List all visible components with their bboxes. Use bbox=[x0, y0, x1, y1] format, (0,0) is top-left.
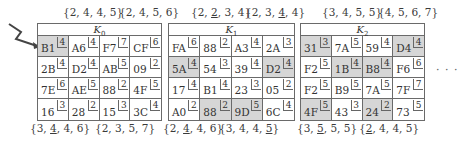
count-badge: 6 bbox=[150, 37, 160, 48]
byte-cell: 394 bbox=[232, 57, 263, 78]
count-badge: 5 bbox=[381, 79, 391, 90]
continuation-ellipsis: · · · bbox=[436, 64, 458, 77]
byte-value: D4 bbox=[396, 42, 411, 54]
byte-value: 88 bbox=[203, 42, 216, 54]
byte-cell: 7F7 bbox=[393, 78, 424, 99]
key-title: K0 bbox=[38, 24, 161, 36]
count-badge: 5 bbox=[320, 58, 330, 69]
byte-cell: AB5 bbox=[100, 57, 131, 78]
byte-cell: F66 bbox=[393, 57, 424, 78]
byte-cell: 282 bbox=[69, 99, 100, 120]
count-badge: 5 bbox=[320, 100, 330, 111]
key-0-bottom-label: {2, 3, 5, 7} bbox=[95, 122, 155, 134]
byte-value: 59 bbox=[366, 42, 379, 54]
byte-value: F2 bbox=[304, 84, 318, 96]
count-badge: 3 bbox=[57, 100, 67, 111]
count-badge: 4 bbox=[413, 37, 423, 48]
byte-cell: 092 bbox=[130, 57, 161, 78]
byte-cell: 6C4 bbox=[263, 99, 294, 120]
byte-cell: 7A5 bbox=[332, 36, 363, 57]
byte-value: AB bbox=[103, 63, 118, 75]
byte-cell: B95 bbox=[332, 78, 363, 99]
count-badge: 4 bbox=[57, 37, 67, 48]
count-badge: 2 bbox=[188, 100, 198, 111]
highlighted-byte-cell: D44 bbox=[393, 36, 424, 57]
count-badge: 4 bbox=[283, 58, 293, 69]
highlighted-byte-cell: 4F5 bbox=[301, 99, 332, 120]
byte-value: 15 bbox=[103, 106, 116, 118]
byte-cell: 2A3 bbox=[263, 36, 294, 57]
byte-value: 24 bbox=[366, 106, 379, 118]
highlighted-byte-cell: 9D5 bbox=[232, 99, 263, 120]
count-badge: 4 bbox=[220, 79, 230, 90]
byte-cell: 052 bbox=[263, 78, 294, 99]
highlighted-byte-cell: B14 bbox=[38, 36, 69, 57]
count-badge: 4 bbox=[251, 37, 261, 48]
byte-value: B8 bbox=[366, 63, 380, 75]
key-block-1: K1FA6882A342A35A4543394D24174B14233052A0… bbox=[168, 23, 295, 121]
byte-value: 1B bbox=[335, 63, 349, 75]
byte-cell: 233 bbox=[232, 78, 263, 99]
byte-cell: 735 bbox=[393, 99, 424, 120]
count-badge: 2 bbox=[220, 100, 230, 111]
key-2-bottom-label: {2, 4, 4, 5} bbox=[359, 122, 419, 134]
key-1-bottom-label: {2, 4, 4, 6} bbox=[163, 122, 223, 134]
byte-value: 7A bbox=[366, 84, 380, 96]
byte-value: 54 bbox=[203, 63, 216, 75]
byte-value: 88 bbox=[103, 84, 116, 96]
byte-value: B9 bbox=[335, 84, 349, 96]
count-badge: 5 bbox=[118, 58, 128, 69]
byte-value: 4F bbox=[133, 84, 147, 96]
highlighted-byte-cell: 882 bbox=[200, 99, 231, 120]
key-block-0: K0B14A64F77CF62B4D24AB50927E6AE58824F516… bbox=[37, 23, 162, 121]
count-badge: 5 bbox=[251, 100, 261, 111]
byte-value: 39 bbox=[235, 63, 248, 75]
byte-cell: 7E6 bbox=[38, 78, 69, 99]
byte-value: 43 bbox=[335, 106, 348, 118]
count-badge: 6 bbox=[413, 58, 423, 69]
key-grid: FA6882A342A35A4543394D24174B14233052A028… bbox=[169, 36, 294, 120]
count-badge: 3 bbox=[118, 100, 128, 111]
count-badge: 4 bbox=[88, 58, 98, 69]
count-badge: 3 bbox=[351, 100, 361, 111]
byte-cell: 882 bbox=[100, 78, 131, 99]
byte-cell: 543 bbox=[200, 57, 231, 78]
count-badge: 2 bbox=[220, 37, 230, 48]
byte-value: F2 bbox=[304, 63, 318, 75]
count-badge: 5 bbox=[351, 37, 361, 48]
key-0-top-label: {2, 4, 5, 6} bbox=[119, 6, 179, 18]
count-badge: 6 bbox=[57, 79, 67, 90]
byte-cell: F77 bbox=[100, 36, 131, 57]
byte-cell: 153 bbox=[100, 99, 131, 120]
byte-value: 88 bbox=[203, 106, 216, 118]
byte-value: 23 bbox=[235, 84, 248, 96]
byte-value: 6C bbox=[266, 106, 281, 118]
byte-value: F6 bbox=[396, 63, 410, 75]
count-badge: 4 bbox=[283, 100, 293, 111]
byte-cell: B14 bbox=[200, 78, 231, 99]
byte-cell: 174 bbox=[169, 78, 200, 99]
count-badge: 2 bbox=[381, 100, 391, 111]
count-badge: 4 bbox=[351, 58, 361, 69]
count-badge: 4 bbox=[188, 58, 198, 69]
byte-value: 73 bbox=[396, 106, 409, 118]
count-badge: 4 bbox=[251, 58, 261, 69]
key-title: K1 bbox=[169, 24, 294, 36]
key-0-bottom-label: {3, 4, 4, 6} bbox=[30, 122, 90, 134]
byte-cell: F25 bbox=[301, 78, 332, 99]
byte-value: A0 bbox=[172, 106, 186, 118]
byte-value: 2A bbox=[266, 42, 280, 54]
byte-cell: 3C4 bbox=[130, 99, 161, 120]
byte-value: F7 bbox=[103, 42, 117, 54]
count-badge: 2 bbox=[150, 58, 160, 69]
count-badge: 4 bbox=[188, 79, 198, 90]
key-block-2: K23137A5594D44F251B4B84F66F25B957A57F74F… bbox=[300, 23, 425, 121]
count-badge: 5 bbox=[413, 100, 423, 111]
key-1-bottom-label: {3, 4, 4, 5} bbox=[219, 122, 279, 134]
byte-value: 4F bbox=[304, 106, 318, 118]
byte-cell: 882 bbox=[200, 36, 231, 57]
key-0-top-label: {2, 4, 4, 5} bbox=[63, 6, 123, 18]
byte-value: D2 bbox=[266, 63, 281, 75]
byte-cell: AE5 bbox=[69, 78, 100, 99]
key-1-top-label: {2, 3, 4, 4} bbox=[245, 6, 305, 18]
